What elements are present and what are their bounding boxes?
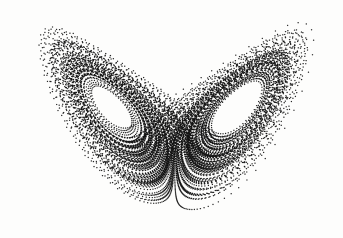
figure-caption-strip: Fig. 1 Lorenz attractor xyxy=(0,230,343,238)
figure-caption: Fig. 1 Lorenz attractor xyxy=(128,237,216,238)
lorenz-attractor-plot xyxy=(0,0,343,238)
lorenz-figure: Fig. 1 Lorenz attractor xyxy=(0,0,343,238)
